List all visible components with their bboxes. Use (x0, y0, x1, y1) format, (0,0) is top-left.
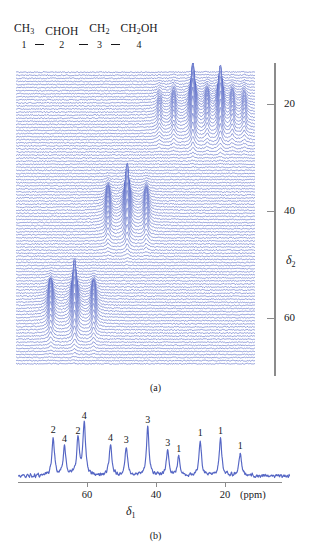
delta1-tick-label: 40 (151, 489, 162, 500)
stacked-traces (16, 63, 255, 376)
stack-trace (16, 360, 255, 361)
stack-trace (16, 269, 255, 272)
stack-trace (16, 265, 255, 267)
stack-trace (16, 353, 255, 355)
stack-trace (16, 348, 255, 352)
peak-assignment-label: 4 (62, 434, 67, 444)
peak-assignment-label: 3 (145, 415, 150, 425)
stack-trace (16, 267, 255, 269)
delta2-tick-mark (267, 318, 274, 319)
delta2-tick-label: 40 (284, 205, 295, 216)
bond-line (111, 38, 120, 51)
peak-assignment-label: 2 (51, 425, 56, 435)
stack-trace (16, 167, 255, 168)
delta1-subscript: 1 (132, 511, 136, 520)
peak-assignment-label: 4 (82, 411, 87, 421)
peak-assignment-label: 2 (76, 426, 81, 436)
delta1-tick-label: 60 (82, 489, 93, 500)
chemical-structure: CH31CHOH2CH23CH2OH4 (14, 22, 158, 51)
stack-trace (16, 174, 255, 177)
stack-trace (16, 254, 255, 257)
structure-carbon-number: 4 (137, 39, 142, 51)
stack-trace (16, 176, 255, 193)
spectrum-line (18, 421, 290, 478)
delta2-tick-mark (267, 211, 274, 212)
peak-assignment-label: 1 (198, 428, 203, 438)
1d-spectrum-plot: 242443331111 (18, 404, 290, 482)
stack-trace (16, 169, 255, 171)
structure-carbon-number: 1 (22, 39, 27, 51)
stack-trace (16, 177, 255, 183)
stack-trace (16, 363, 255, 364)
structure-formula: CHOH (45, 25, 78, 38)
structure-carbon-number: 3 (97, 39, 102, 51)
delta1-tick-mark (87, 482, 88, 487)
structure-formula: CH2OH (121, 22, 158, 38)
peak-assignment-label: 1 (218, 426, 223, 436)
nmr-figure: CH31CHOH2CH23CH2OH4 204060 δ2 (a) 242443… (0, 0, 311, 551)
bond-line (79, 38, 88, 51)
stack-trace (16, 156, 255, 159)
delta2-axis-label: δ2 (286, 253, 296, 269)
delta1-tick-label: 20 (220, 489, 231, 500)
stack-trace (16, 163, 255, 165)
stack-trace (16, 258, 255, 260)
peak-assignment-label: 3 (124, 435, 129, 445)
delta1-axis: 604020 (18, 482, 282, 483)
structure-formula: CH2 (89, 22, 109, 38)
stack-trace (16, 261, 255, 263)
peak-assignment-label: 4 (108, 433, 113, 443)
bond-line (35, 38, 44, 51)
caption-panel-a: (a) (0, 382, 311, 393)
delta2-subscript: 2 (292, 260, 296, 269)
caption-panel-b: (b) (0, 530, 311, 541)
stacked-2d-spectrum-plot (16, 63, 255, 376)
structure-row: CH31CHOH2CH23CH2OH4 (14, 22, 158, 51)
structure-unit: CH2OH4 (121, 22, 158, 51)
delta2-tick-label: 20 (284, 98, 295, 109)
stack-trace (16, 177, 255, 186)
peak-assignment-label: 3 (165, 438, 170, 448)
stack-trace (16, 356, 255, 358)
ppm-unit-label: (ppm) (240, 489, 266, 500)
stack-trace (16, 160, 255, 162)
peak-assignment-label: 1 (238, 441, 243, 451)
delta2-tick-label: 60 (284, 312, 295, 323)
delta2-tick-mark (267, 104, 274, 105)
spectrum-trace (18, 404, 290, 482)
delta1-tick-mark (156, 482, 157, 487)
peak-assignment-label: 1 (176, 444, 181, 454)
structure-unit: CH23 (89, 22, 109, 51)
structure-unit: CHOH2 (45, 25, 78, 51)
structure-carbon-number: 2 (59, 39, 64, 51)
structure-unit: CH31 (14, 22, 34, 51)
structure-formula: CH3 (14, 22, 34, 38)
delta1-axis-label: δ1 (126, 504, 136, 520)
stack-trace (16, 172, 255, 174)
delta1-tick-mark (225, 482, 226, 487)
delta2-axis: 204060 (274, 63, 276, 376)
